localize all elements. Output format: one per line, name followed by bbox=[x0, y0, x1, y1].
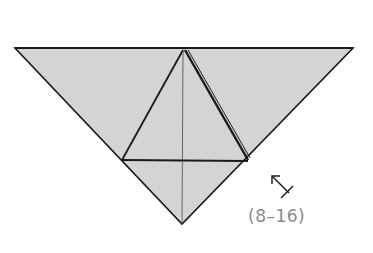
turn-over-arrow-icon bbox=[272, 176, 293, 198]
horizontal-fold-edge bbox=[122, 160, 248, 161]
step-label: (8–16) bbox=[248, 206, 305, 226]
origami-diagram bbox=[0, 0, 373, 253]
paper-outer-triangle bbox=[15, 48, 353, 224]
